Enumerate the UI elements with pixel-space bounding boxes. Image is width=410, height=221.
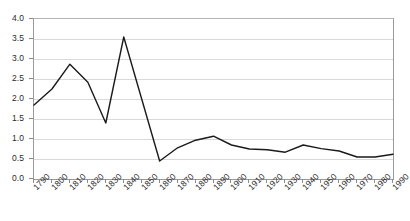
x-tick-label: 1850 [139, 171, 160, 192]
x-tick-label: 1980 [372, 171, 393, 192]
x-tick-label: 1800 [49, 171, 70, 192]
x-axis: 1790180018101820183018401850186018701880… [0, 0, 410, 221]
x-tick-label: 1990 [390, 171, 410, 192]
x-tick-label: 1930 [282, 171, 303, 192]
x-tick-label: 1840 [121, 171, 142, 192]
x-tick-label: 1820 [85, 171, 106, 192]
x-tick-label: 1860 [157, 171, 178, 192]
x-tick-label: 1870 [175, 171, 196, 192]
x-tick-label: 1830 [103, 171, 124, 192]
x-tick-label: 1940 [300, 171, 321, 192]
x-tick-label: 1920 [264, 171, 285, 192]
x-tick-label: 1960 [336, 171, 357, 192]
x-tick-label: 1880 [193, 171, 214, 192]
x-tick-label: 1910 [246, 171, 267, 192]
line-chart: 0.00.51.01.52.02.53.03.54.0 179018001810… [0, 0, 410, 221]
x-tick-label: 1970 [354, 171, 375, 192]
x-tick-label: 1890 [211, 171, 232, 192]
x-tick-label: 1790 [31, 171, 52, 192]
x-tick-label: 1810 [67, 171, 88, 192]
x-tick-label: 1950 [318, 171, 339, 192]
x-tick-label: 1900 [228, 171, 249, 192]
